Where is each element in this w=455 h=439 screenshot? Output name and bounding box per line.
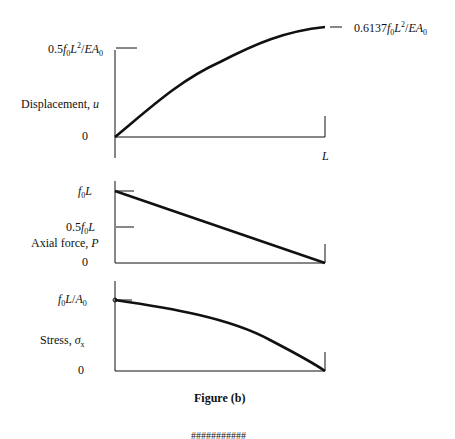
- tick-label-mid-axial: 0.5f0L: [66, 221, 95, 236]
- ylabel-axial: Axial force, P: [31, 237, 99, 249]
- end-value-label: 0.6137f0L2/EA0: [354, 21, 427, 37]
- ylabel-displacement: Displacement, u: [21, 98, 99, 110]
- x-end-label: L: [322, 150, 329, 162]
- figure-caption: Figure (b): [194, 391, 245, 406]
- stress-chart: [113, 281, 325, 371]
- displacement-chart: [115, 27, 342, 158]
- axial-chart: [115, 181, 325, 263]
- displacement-curve: [115, 27, 325, 137]
- tick-label-zero-stress: 0: [78, 364, 84, 376]
- axial-line: [115, 191, 325, 263]
- tick-label-top-axial: f0L: [78, 185, 92, 200]
- ylabel-stress: Stress, σx: [40, 334, 85, 349]
- tick-label-zero-axial: 0: [82, 256, 88, 268]
- footer-hashes: ###########: [191, 430, 246, 439]
- tick-label-top-stress: f0L/A0: [58, 293, 87, 308]
- tick-label-zero-displacement: 0: [82, 130, 88, 142]
- stress-curve: [115, 300, 325, 371]
- tick-label-top-displacement: 0.5f0L2/EA0: [48, 42, 103, 58]
